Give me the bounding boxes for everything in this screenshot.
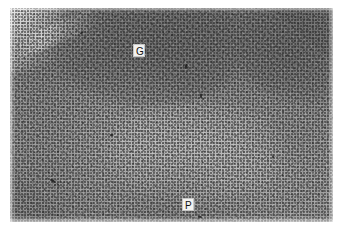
figure-root: G P [0,0,341,237]
paracortex-region [106,100,286,204]
label-germinal-center: G [133,44,145,57]
label-paracortex: P [182,198,194,211]
micrograph-image: G P [10,8,333,222]
capsule-corner-highlight [10,8,60,44]
